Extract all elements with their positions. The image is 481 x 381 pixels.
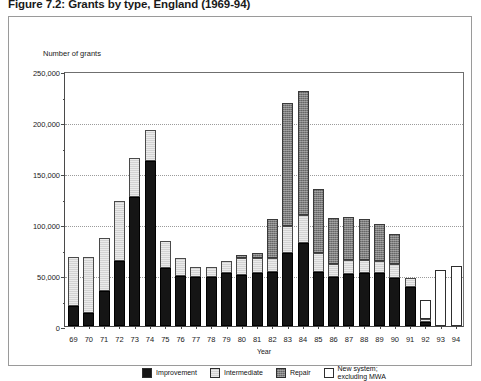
- bar-segment-repair[interactable]: [343, 217, 354, 260]
- bar-segment-newsystem[interactable]: [451, 266, 462, 326]
- y-axis-tick-label: 0: [56, 324, 60, 333]
- bar-segment-improvement[interactable]: [328, 277, 339, 326]
- bar-segment-newsystem[interactable]: [435, 270, 446, 326]
- bar-segment-intermediate[interactable]: [236, 258, 247, 275]
- bar-segment-intermediate[interactable]: [83, 257, 94, 313]
- x-axis-tick-label: 72: [115, 335, 123, 344]
- bar-group[interactable]: [359, 219, 370, 326]
- bar-group[interactable]: [451, 266, 462, 326]
- bar-group[interactable]: [252, 253, 263, 326]
- legend-item-improvement[interactable]: Improvement: [142, 368, 197, 378]
- bar-segment-repair[interactable]: [252, 253, 263, 258]
- bar-group[interactable]: [129, 158, 140, 326]
- bar-segment-improvement[interactable]: [405, 287, 416, 326]
- bar-group[interactable]: [435, 270, 446, 326]
- bar-group[interactable]: [420, 299, 431, 326]
- bar-group[interactable]: [206, 267, 217, 326]
- bar-segment-improvement[interactable]: [343, 274, 354, 326]
- bar-segment-improvement[interactable]: [282, 253, 293, 326]
- bar-segment-intermediate[interactable]: [252, 258, 263, 273]
- bar-segment-intermediate[interactable]: [99, 238, 110, 291]
- bar-segment-repair[interactable]: [374, 224, 385, 261]
- bar-segment-repair[interactable]: [359, 219, 370, 260]
- bar-segment-repair[interactable]: [328, 218, 339, 264]
- bar-group[interactable]: [328, 218, 339, 326]
- bar-segment-intermediate[interactable]: [328, 264, 339, 277]
- bar-segment-repair[interactable]: [298, 91, 309, 214]
- bar-group[interactable]: [114, 201, 125, 326]
- bar-group[interactable]: [68, 257, 79, 326]
- bar-segment-improvement[interactable]: [160, 268, 171, 326]
- bar-segment-improvement[interactable]: [236, 275, 247, 326]
- bar-segment-intermediate[interactable]: [129, 158, 140, 198]
- bar-segment-intermediate[interactable]: [175, 258, 186, 276]
- bar-segment-intermediate[interactable]: [221, 261, 232, 273]
- bar-segment-intermediate[interactable]: [405, 278, 416, 287]
- legend-item-intermediate[interactable]: Intermediate: [210, 368, 263, 378]
- bar-segment-improvement[interactable]: [313, 272, 324, 326]
- bar-group[interactable]: [145, 130, 156, 326]
- bar-segment-improvement[interactable]: [389, 278, 400, 326]
- x-axis-tick: [395, 326, 396, 329]
- bar-segment-newsystem[interactable]: [420, 300, 431, 319]
- bar-segment-improvement[interactable]: [252, 273, 263, 326]
- bar-segment-intermediate[interactable]: [145, 130, 156, 161]
- bar-segment-intermediate[interactable]: [206, 267, 217, 277]
- bar-segment-improvement[interactable]: [221, 273, 232, 326]
- bar-group[interactable]: [190, 267, 201, 326]
- x-axis-tick-label: 90: [391, 335, 399, 344]
- plot-area: 050,000100,000150,000200,000250,000 6970…: [64, 72, 464, 327]
- bar-group[interactable]: [221, 261, 232, 326]
- bar-segment-intermediate[interactable]: [160, 241, 171, 268]
- legend-item-repair[interactable]: Repair: [276, 368, 311, 378]
- bar-segment-intermediate[interactable]: [298, 215, 309, 244]
- bar-group[interactable]: [160, 241, 171, 326]
- bar-segment-repair[interactable]: [389, 234, 400, 264]
- bar-segment-intermediate[interactable]: [420, 319, 431, 322]
- bar-segment-improvement[interactable]: [114, 261, 125, 326]
- bar-segment-intermediate[interactable]: [114, 201, 125, 261]
- bar-segment-improvement[interactable]: [359, 273, 370, 326]
- bar-segment-intermediate[interactable]: [359, 260, 370, 273]
- bar-segment-intermediate[interactable]: [389, 264, 400, 278]
- bar-group[interactable]: [405, 278, 416, 326]
- bar-segment-improvement[interactable]: [175, 276, 186, 326]
- bar-group[interactable]: [389, 234, 400, 326]
- bar-group[interactable]: [343, 217, 354, 326]
- bar-segment-intermediate[interactable]: [190, 267, 201, 277]
- bar-segment-repair[interactable]: [267, 219, 278, 258]
- bar-segment-intermediate[interactable]: [282, 226, 293, 253]
- bar-segment-intermediate[interactable]: [313, 253, 324, 272]
- bar-group[interactable]: [374, 224, 385, 326]
- x-axis-tick-label: 81: [253, 335, 261, 344]
- bar-segment-repair[interactable]: [282, 103, 293, 226]
- bar-segment-improvement[interactable]: [190, 277, 201, 326]
- bar-group[interactable]: [298, 91, 309, 326]
- legend-item-newsystem[interactable]: New system; excluding MWA: [324, 365, 386, 381]
- bar-segment-improvement[interactable]: [206, 277, 217, 326]
- bar-segment-improvement[interactable]: [374, 273, 385, 326]
- bar-segment-repair[interactable]: [236, 255, 247, 258]
- bar-group[interactable]: [267, 219, 278, 326]
- bar-segment-intermediate[interactable]: [68, 257, 79, 306]
- x-axis-tick: [318, 326, 319, 329]
- bar-segment-improvement[interactable]: [99, 291, 110, 326]
- bar-segment-improvement[interactable]: [267, 272, 278, 326]
- bar-segment-improvement[interactable]: [129, 197, 140, 326]
- x-axis-tick-label: 88: [360, 335, 368, 344]
- bar-segment-intermediate[interactable]: [267, 258, 278, 272]
- bar-segment-intermediate[interactable]: [343, 260, 354, 274]
- bar-group[interactable]: [175, 258, 186, 326]
- bar-segment-intermediate[interactable]: [374, 261, 385, 273]
- bar-segment-improvement[interactable]: [83, 313, 94, 326]
- bar-group[interactable]: [99, 238, 110, 326]
- bar-group[interactable]: [83, 257, 94, 326]
- bar-segment-repair[interactable]: [313, 189, 324, 252]
- bar-segment-improvement[interactable]: [68, 306, 79, 326]
- bar-group[interactable]: [282, 103, 293, 326]
- bar-group[interactable]: [236, 255, 247, 326]
- legend-label: New system; excluding MWA: [338, 365, 386, 381]
- bar-group[interactable]: [313, 189, 324, 326]
- bar-segment-improvement[interactable]: [298, 243, 309, 326]
- bar-segment-improvement[interactable]: [145, 161, 156, 326]
